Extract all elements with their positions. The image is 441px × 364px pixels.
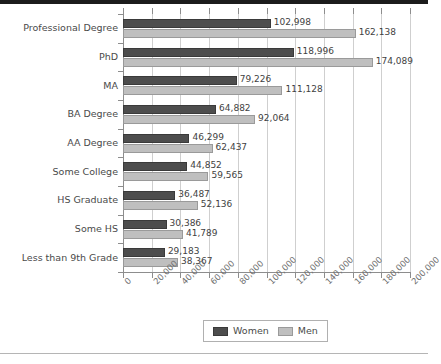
legend-item-men[interactable]: Men — [278, 326, 318, 336]
bar-chart: Professional DegreePhDMABA DegreeAA Degr… — [0, 4, 428, 353]
bar-women[interactable] — [123, 162, 187, 171]
bar-group: 64,88292,064 — [123, 103, 410, 129]
bar-group: 36,48752,136 — [123, 189, 410, 215]
bar-women[interactable] — [123, 191, 175, 200]
bar-value-label: 29,183 — [168, 247, 200, 256]
category-label: Professional Degree — [6, 23, 118, 33]
bar-value-label: 44,852 — [190, 161, 222, 170]
bar-value-label: 36,487 — [178, 190, 210, 199]
category-label: AA Degree — [6, 138, 118, 148]
category-labels-group: Professional DegreePhDMABA DegreeAA Degr… — [0, 14, 118, 272]
bar-men[interactable] — [123, 115, 255, 124]
category-label: Some HS — [6, 224, 118, 234]
x-tick-label: 0 — [123, 276, 133, 286]
bar-women[interactable] — [123, 76, 237, 85]
bar-group: 30,38641,789 — [123, 218, 410, 244]
bar-value-label: 41,789 — [186, 229, 218, 238]
category-label: HS Graduate — [6, 195, 118, 205]
bar-value-label: 64,882 — [219, 104, 251, 113]
bar-women[interactable] — [123, 220, 167, 229]
bar-women[interactable] — [123, 248, 165, 257]
bar-value-label: 174,089 — [376, 57, 413, 66]
bar-group: 44,85259,565 — [123, 160, 410, 186]
legend-swatch-men-icon — [278, 327, 293, 336]
bar-value-label: 52,136 — [201, 200, 233, 209]
x-tick-label: 200,000 — [410, 255, 441, 286]
bar-women[interactable] — [123, 134, 189, 143]
bar-value-label: 62,437 — [216, 143, 248, 152]
x-tick-mark-top — [410, 8, 411, 14]
legend-label-men: Men — [298, 326, 318, 336]
bar-men[interactable] — [123, 230, 183, 239]
bar-value-label: 30,386 — [170, 219, 202, 228]
bottom-separator-rule — [0, 353, 428, 354]
bar-group: 118,996174,089 — [123, 46, 410, 72]
bar-men[interactable] — [123, 29, 356, 38]
plot-area: 102,998162,138118,996174,08979,226111,12… — [123, 14, 410, 272]
bar-value-label: 162,138 — [359, 28, 396, 37]
chart-legend: Women Men — [203, 320, 328, 342]
bar-group: 46,29962,437 — [123, 132, 410, 158]
bar-women[interactable] — [123, 105, 216, 114]
gridline — [410, 14, 411, 272]
bar-value-label: 59,565 — [211, 171, 243, 180]
bar-value-label: 79,226 — [240, 75, 272, 84]
bar-value-label: 92,064 — [258, 114, 290, 123]
bar-group: 102,998162,138 — [123, 17, 410, 43]
bar-women[interactable] — [123, 19, 271, 28]
bar-value-label: 118,996 — [297, 47, 334, 56]
category-label: MA — [6, 81, 118, 91]
legend-item-women[interactable]: Women — [213, 326, 269, 336]
category-label: Some College — [6, 167, 118, 177]
category-label: PhD — [6, 52, 118, 62]
bar-value-label: 111,128 — [285, 85, 322, 94]
bar-women[interactable] — [123, 48, 294, 57]
bar-men[interactable] — [123, 201, 198, 210]
bar-group: 79,226111,128 — [123, 74, 410, 100]
bar-value-label: 102,998 — [274, 18, 311, 27]
bar-men[interactable] — [123, 58, 373, 67]
bar-men[interactable] — [123, 86, 282, 95]
category-label: Less than 9th Grade — [6, 253, 118, 263]
bar-men[interactable] — [123, 144, 213, 153]
legend-label-women: Women — [233, 326, 269, 336]
bar-value-label: 46,299 — [192, 133, 224, 142]
category-label: BA Degree — [6, 109, 118, 119]
legend-swatch-women-icon — [213, 327, 228, 336]
bar-men[interactable] — [123, 172, 208, 181]
